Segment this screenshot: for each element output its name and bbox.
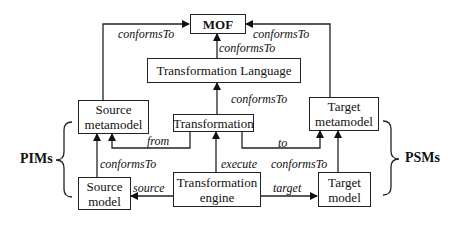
node-transformation-language: Transformation Language <box>147 58 301 83</box>
node-transformation-engine-label: Transformation engine <box>177 175 257 205</box>
node-source-metamodel: Source metamodel <box>78 100 149 134</box>
label-srcmodel-conformsto: conformsTo <box>100 157 156 172</box>
label-source: source <box>133 181 165 196</box>
node-mof: MOF <box>190 14 246 34</box>
pims-brace <box>56 122 72 197</box>
label-from: from <box>147 134 169 149</box>
node-target-metamodel: Target metamodel <box>309 97 379 131</box>
psms-brace <box>383 121 399 195</box>
label-execute: execute <box>221 157 257 172</box>
node-transformation-engine: Transformation engine <box>173 172 261 207</box>
node-source-metamodel-label: Source metamodel <box>83 102 144 132</box>
node-source-model-label: Source model <box>85 179 124 209</box>
node-source-model: Source model <box>78 177 131 210</box>
label-trans-conformsto: conformsTo <box>231 92 287 107</box>
label-target: target <box>273 181 301 196</box>
node-transformation: Transformation <box>173 114 254 132</box>
node-target-model: Target model <box>318 172 371 207</box>
group-label-psms: PSMs <box>405 150 440 166</box>
node-transformation-label: Transformation <box>173 116 253 131</box>
node-target-model-label: Target model <box>325 175 364 205</box>
label-tl-conformsto: conformsTo <box>219 41 275 56</box>
label-tgtmodel-conformsto: conformsTo <box>271 157 327 172</box>
label-srcmm-conformsto: conformsTo <box>118 27 174 42</box>
node-target-metamodel-label: Target metamodel <box>314 99 374 129</box>
node-mof-label: MOF <box>203 17 233 32</box>
node-transformation-language-label: Transformation Language <box>157 63 292 78</box>
group-label-pims: PIMs <box>20 151 53 167</box>
label-tgtmm-conformsto: conformsTo <box>253 27 309 42</box>
label-to: to <box>278 136 287 151</box>
